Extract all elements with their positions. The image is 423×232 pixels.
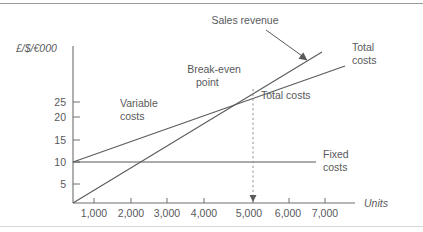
x-tick-label-1000: 1,000 bbox=[81, 207, 107, 219]
break-even-drop-line-group bbox=[250, 89, 257, 202]
y-tick-label-15: 15 bbox=[54, 134, 66, 146]
y-tick-label-10: 10 bbox=[54, 156, 66, 168]
y-tick-label-25: 25 bbox=[54, 96, 66, 108]
break-even-arrowhead-icon bbox=[250, 195, 257, 202]
x-tick-labels: 1,000 2,000 3,000 4,000 5,000 6,000 7,00… bbox=[81, 207, 338, 219]
annotation-total-costs-inline: Total costs bbox=[261, 89, 311, 101]
x-tick-label-2000: 2,000 bbox=[118, 207, 144, 219]
annotation-fixed-costs-line2: costs bbox=[323, 161, 348, 173]
break-even-chart-svg: 25 20 15 10 5 £/$/€000 1,000 2,000 3,000… bbox=[0, 0, 423, 232]
x-tick-label-7000: 7,000 bbox=[312, 207, 338, 219]
annotation-total-costs-right-line1: Total bbox=[352, 41, 374, 53]
x-tick-label-3000: 3,000 bbox=[154, 207, 180, 219]
y-tick-labels: 25 20 15 10 5 bbox=[54, 96, 66, 190]
x-tick-marks bbox=[94, 198, 325, 203]
x-tick-label-6000: 6,000 bbox=[275, 207, 301, 219]
annotation-variable-costs-line1: Variable bbox=[120, 97, 158, 109]
y-tick-marks bbox=[73, 102, 80, 184]
sales-revenue-leader-line bbox=[266, 30, 305, 58]
annotation-break-even-line2: point bbox=[196, 76, 219, 88]
sales-revenue-arrowhead-icon bbox=[299, 52, 308, 60]
x-tick-label-4000: 4,000 bbox=[191, 207, 217, 219]
x-tick-label-5000: 5,000 bbox=[236, 207, 262, 219]
annotation-break-even-line1: Break-even bbox=[187, 63, 241, 75]
annotation-fixed-costs-line1: Fixed bbox=[323, 148, 349, 160]
annotation-total-costs-right-line2: costs bbox=[352, 54, 377, 66]
y-tick-label-5: 5 bbox=[60, 178, 66, 190]
sales-revenue-leader-group bbox=[266, 30, 308, 61]
x-axis-title: Units bbox=[364, 197, 389, 209]
y-axis-title: £/$/€000 bbox=[15, 42, 57, 54]
annotation-sales-revenue: Sales revenue bbox=[211, 14, 278, 26]
break-even-chart-figure: 25 20 15 10 5 £/$/€000 1,000 2,000 3,000… bbox=[0, 0, 423, 232]
y-tick-label-20: 20 bbox=[54, 111, 66, 123]
annotation-variable-costs-line2: costs bbox=[120, 110, 145, 122]
annotations-group: Sales revenue Break-even point Total cos… bbox=[120, 14, 377, 173]
